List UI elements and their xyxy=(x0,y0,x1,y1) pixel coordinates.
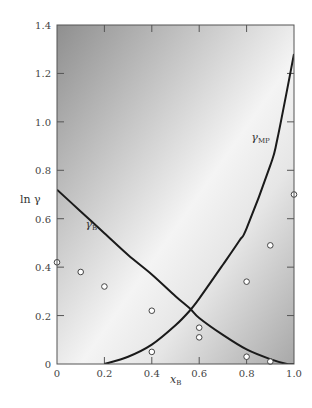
y-axis-label: ln γ xyxy=(20,193,41,206)
x-tick-label: 0.2 xyxy=(96,368,112,379)
x-tick-label: 0.8 xyxy=(239,368,255,379)
y-tick-label: 0 xyxy=(45,359,51,370)
data-point xyxy=(102,284,108,290)
x-tick-label: 1.0 xyxy=(286,368,302,379)
plot-background xyxy=(57,25,294,364)
data-point xyxy=(196,335,202,341)
data-point xyxy=(244,279,250,285)
x-tick-label: 0 xyxy=(54,368,60,379)
series-label-sub: MP xyxy=(258,137,270,145)
data-point xyxy=(196,325,202,331)
y-tick-label: 0.2 xyxy=(35,311,51,322)
chart: 00.20.40.60.81.000.20.40.60.81.01.21.4 l… xyxy=(0,0,312,408)
y-tick-label: 0.6 xyxy=(35,214,51,225)
data-point xyxy=(244,354,250,360)
y-tick-label: 1.4 xyxy=(35,20,51,31)
y-tick-label: 0.8 xyxy=(35,165,51,176)
series-label-sub: B xyxy=(92,224,97,232)
data-point xyxy=(149,349,155,355)
x-axis-label: xB xyxy=(170,373,181,387)
y-tick-label: 0.4 xyxy=(35,262,51,273)
y-tick-label: 1.0 xyxy=(35,117,51,128)
x-tick-label: 0.6 xyxy=(191,368,207,379)
data-point xyxy=(268,243,274,249)
x-tick-label: 0.4 xyxy=(144,368,160,379)
x-axis-label-sub: B xyxy=(176,379,181,387)
data-point xyxy=(149,308,155,314)
data-point xyxy=(78,269,84,275)
y-tick-label: 1.2 xyxy=(35,68,51,79)
